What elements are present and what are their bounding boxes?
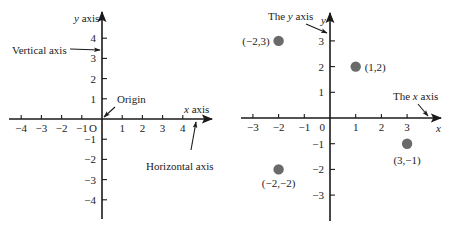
y-tick-label: −3 [312,189,324,201]
x-tick-label: −4 [15,122,27,134]
vertical-axis-annotation: Vertical axis [12,44,67,56]
x-tick-label: 1 [119,122,125,134]
left-x-axis-label: x axis [183,103,209,115]
the-x-axis-pointer-arrow [418,104,428,116]
x-tick-label: 2 [379,121,385,133]
x-tick-label: 1 [353,121,359,133]
y-tick-label: 1 [91,93,97,105]
right-y-axis-var: y [320,14,326,26]
y-tick-label: −2 [312,163,324,175]
y-tick-label: −4 [84,194,96,206]
y-tick-label: −2 [84,153,96,165]
point-label: (3,−1) [393,154,421,167]
data-point [273,164,283,174]
figure-stage: −4−3−2−112344321−1−2−3−4 O y axis x axis… [0,0,454,232]
x-tick-label: −3 [247,121,259,133]
data-point [402,139,412,149]
y-tick-label: −1 [84,133,96,145]
y-tick-label: 3 [319,35,325,47]
horizontal-axis-pointer-arrow [191,122,196,150]
left-origin-label: O [89,122,97,134]
plotted-points: (−2,3)(1,2)(3,−1)(−2,−2) [242,35,421,191]
x-tick-label: −3 [36,122,48,134]
left-coordinate-plane: −4−3−2−112344321−1−2−3−4 O y axis x axis… [9,12,214,219]
x-tick-label: 2 [140,122,146,134]
y-tick-label: −1 [312,138,324,150]
y-tick-label: 2 [319,61,325,73]
x-tick-label: 4 [180,122,186,134]
x-tick-label: −2 [56,122,68,134]
horizontal-axis-annotation: Horizontal axis [146,160,214,172]
y-tick-label: 2 [91,73,97,85]
data-point [273,36,283,46]
x-tick-label: −2 [273,121,285,133]
y-tick-label: −3 [84,174,96,186]
data-point [351,61,361,71]
point-label: (1,2) [365,61,386,74]
x-tick-label: 3 [160,122,166,134]
origin-pointer-arrow [104,107,115,117]
the-x-axis-annotation: The x axis [393,90,438,102]
right-origin-label: 0 [320,121,326,133]
x-tick-label: 3 [404,121,410,133]
the-y-axis-annotation: The y axis [268,10,313,22]
vertical-axis-pointer-arrow [70,49,100,50]
right-coordinate-plane: −3−2−1123321−1−2−3 0 y x The y axis The … [241,10,441,221]
point-label: (−2,−2) [262,177,296,190]
left-y-axis-label: y axis [73,12,99,24]
y-tick-label: 1 [319,86,325,98]
x-tick-label: −1 [76,122,88,134]
y-tick-label: 3 [91,52,97,64]
origin-annotation: Origin [117,93,146,105]
right-x-axis-var: x [435,122,441,134]
x-tick-label: −1 [298,121,310,133]
coordinate-figures: −4−3−2−112344321−1−2−3−4 O y axis x axis… [0,0,454,232]
point-label: (−2,3) [242,35,270,48]
y-tick-label: 4 [91,32,97,44]
